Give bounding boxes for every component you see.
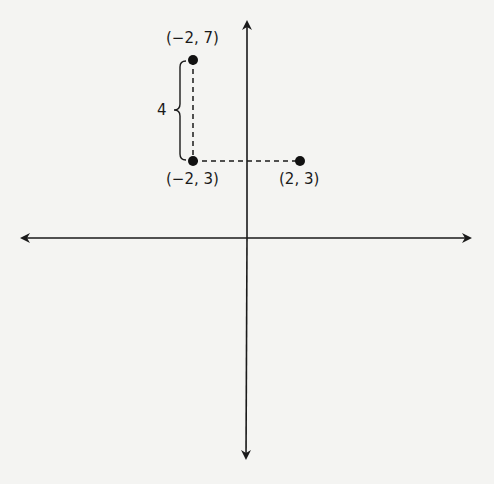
point-neg2-7 (188, 55, 198, 65)
coordinate-plane: (−2, 7) (−2, 3) (2, 3) 4 (0, 0, 494, 484)
point-label-2-3: (2, 3) (279, 170, 319, 188)
brace (174, 61, 186, 160)
point-neg2-3 (188, 156, 198, 166)
point-label-neg2-3: (−2, 3) (166, 170, 219, 188)
brace-label: 4 (157, 101, 167, 119)
point-label-neg2-7: (−2, 7) (166, 29, 219, 47)
point-2-3 (295, 156, 305, 166)
y-axis (246, 22, 247, 458)
